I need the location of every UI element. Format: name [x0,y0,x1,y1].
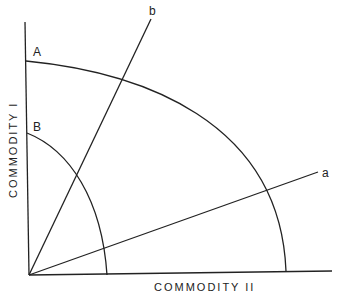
x-axis [29,271,332,275]
ray-b [29,19,151,275]
ppf-diagram: A B b a COMMODITY II COMMODITY I [0,0,337,296]
curve-b-label: B [33,120,41,134]
curve-a-label: A [33,45,41,59]
y-axis [25,22,29,275]
y-axis-label: COMMODITY I [7,102,19,198]
ray-a-label: a [322,166,329,180]
x-axis-label: COMMODITY II [154,281,255,293]
ray-a [29,172,318,275]
ray-b-label: b [149,4,156,18]
curve-a [26,61,286,271]
